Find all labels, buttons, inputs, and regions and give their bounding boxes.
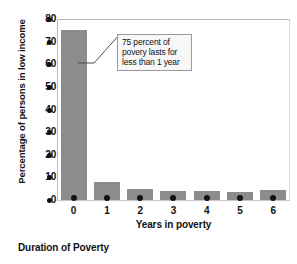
x-tick-dot-marker — [71, 195, 77, 201]
y-tick-dot-marker — [47, 108, 52, 113]
x-axis-title: Years in poverty — [57, 219, 290, 230]
y-tick-dot-marker — [47, 85, 52, 90]
x-dot-slot — [223, 195, 256, 201]
y-tick-dot-marker — [47, 17, 52, 22]
bar-slot — [190, 19, 223, 200]
x-dot-slot — [257, 195, 290, 201]
x-tick-dot-marker — [270, 195, 276, 201]
x-tick-label: 2 — [124, 203, 157, 219]
x-tick-label: 4 — [190, 203, 223, 219]
x-dot-slot — [124, 195, 157, 201]
x-tick-label: 1 — [90, 203, 123, 219]
y-tick-dot-marker — [47, 198, 52, 203]
x-tick-label: 5 — [223, 203, 256, 219]
bar-slot — [223, 19, 256, 200]
y-tick-dot-marker — [47, 40, 52, 45]
x-tick-dot-marker — [170, 195, 176, 201]
x-tick-label: 0 — [57, 203, 90, 219]
bar-0 — [61, 30, 87, 200]
callout-line-1: 75 percent of — [122, 37, 188, 47]
callout-line-3: less than 1 year — [122, 57, 188, 67]
y-tick-dot-marker — [47, 153, 52, 158]
bar-slot — [257, 19, 290, 200]
x-axis-dot-markers — [57, 195, 290, 201]
x-tick-label: 3 — [157, 203, 190, 219]
x-dot-slot — [90, 195, 123, 201]
bar-slot — [57, 19, 90, 200]
figure-caption: Duration of Poverty — [18, 242, 109, 253]
x-tick-dot-marker — [104, 195, 110, 201]
x-axis-ticks: 0123456 — [57, 203, 290, 219]
chart-figure: Percentage of persons in low income 8070… — [0, 0, 297, 264]
callout-annotation: 75 percent of povery lasts for less than… — [117, 34, 192, 71]
x-dot-slot — [157, 195, 190, 201]
x-tick-dot-marker — [204, 195, 210, 201]
x-dot-slot — [190, 195, 223, 201]
callout-line-2: povery lasts for — [122, 47, 188, 57]
x-tick-dot-marker — [137, 195, 143, 201]
x-tick-dot-marker — [237, 195, 243, 201]
x-tick-label: 6 — [257, 203, 290, 219]
x-dot-slot — [57, 195, 90, 201]
